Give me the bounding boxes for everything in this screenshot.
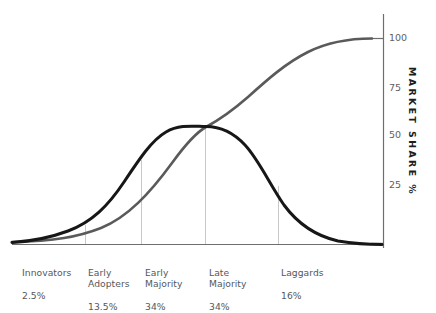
segment-percent-early-majority: 34% [145, 301, 166, 312]
segment-label-laggards: Laggards 16% [281, 255, 324, 301]
y-tick-label-100: 100 [389, 33, 407, 43]
segment-percent-innovators: 2.5% [22, 290, 46, 301]
y-axis-title-text: MARKET SHARE % [407, 67, 418, 196]
bell-curve-adoption-rate [12, 126, 382, 244]
y-axis-title: MARKET SHARE % [396, 55, 428, 207]
segment-name-late-majority: Late Majority [209, 267, 247, 290]
segment-name-early-adopters: Early Adopters [88, 267, 130, 290]
segment-label-late-majority: Late Majority 34% [209, 255, 247, 313]
segment-name-early-majority: Early Majority [145, 267, 183, 290]
segment-label-innovators: Innovators 2.5% [22, 255, 71, 301]
segment-name-innovators: Innovators [22, 267, 71, 278]
segment-label-early-majority: Early Majority 34% [145, 255, 183, 313]
segment-name-laggards: Laggards [281, 267, 324, 278]
segment-percent-laggards: 16% [281, 290, 302, 301]
s-curve-cumulative-adoption [12, 39, 372, 243]
segment-percent-early-adopters: 13.5% [88, 301, 117, 312]
segment-percent-late-majority: 34% [209, 301, 230, 312]
segment-label-early-adopters: Early Adopters 13.5% [88, 255, 130, 313]
